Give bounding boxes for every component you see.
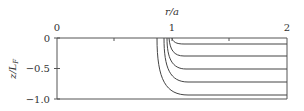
- y-tick-label-neg1: −1.0: [26, 94, 50, 105]
- x-axis-title: r/a: [165, 6, 179, 17]
- curve-3: [167, 38, 287, 69]
- curve-4: [164, 38, 287, 82]
- y-tick-label-neg05: −0.5: [26, 63, 50, 74]
- x-tick-label-2: 2: [284, 22, 290, 33]
- y-axis-title: z/LF: [7, 58, 20, 80]
- curve-2: [169, 38, 287, 56]
- chart: r/a 0 1 2 0 −0.5 −1.0 z/LF: [0, 0, 304, 111]
- x-tick-label-1: 1: [169, 22, 175, 33]
- y-tick-label-0: 0: [44, 33, 50, 44]
- x-tick-label-0: 0: [54, 22, 60, 33]
- curves: [157, 38, 287, 95]
- svg-text:z/LF: z/LF: [7, 58, 20, 80]
